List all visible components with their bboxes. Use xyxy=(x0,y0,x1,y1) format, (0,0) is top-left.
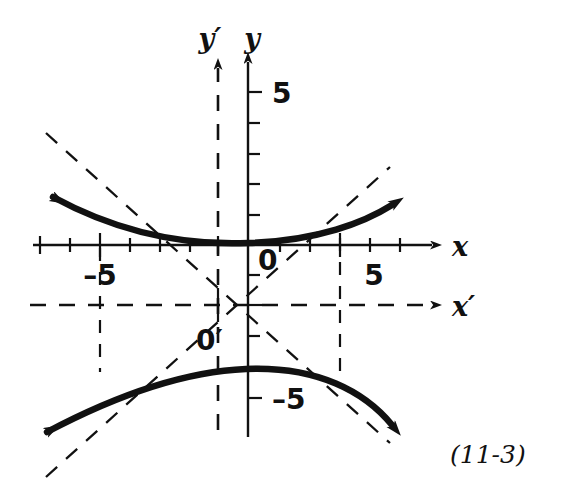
y-axis-label: y xyxy=(243,23,262,54)
figure-container: y′ y x x′ 5 –5 –5 5 0 0′ (11-3) xyxy=(0,0,577,488)
x-axis-label: x xyxy=(451,231,469,262)
y-tick-label-negative-five: –5 xyxy=(272,383,305,416)
origin-prime-label: 0′ xyxy=(196,324,223,357)
y-tick-label-positive-five: 5 xyxy=(272,77,291,110)
x-prime-axis-label: x′ xyxy=(451,291,475,322)
x-tick-label-positive-five: 5 xyxy=(364,259,383,292)
x-tick-label-negative-five: –5 xyxy=(83,259,116,292)
y-prime-axis-label: y′ xyxy=(198,23,222,54)
gridline-group xyxy=(100,238,340,382)
lower-branch-curve xyxy=(47,369,392,432)
hyperbola-figure-svg: y′ y x x′ 5 –5 –5 5 0 0′ (11-3) xyxy=(0,0,577,488)
figure-caption: (11-3) xyxy=(450,440,526,469)
upper-branch-curve xyxy=(53,197,392,243)
origin-label: 0 xyxy=(258,244,277,277)
